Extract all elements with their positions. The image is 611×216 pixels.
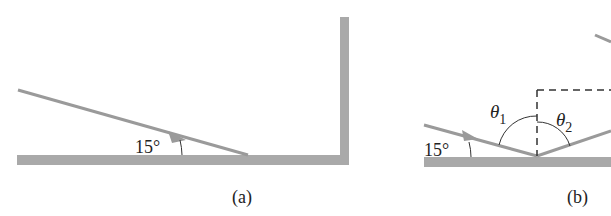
floor-surface: [17, 155, 349, 165]
reflected-ray: [537, 131, 611, 156]
theta1-label: θ1: [490, 101, 506, 127]
panel-b: 15° θ1 θ2 (b): [424, 35, 611, 208]
panel-a: 15° (a): [17, 17, 349, 208]
angle-label: 15°: [135, 137, 160, 157]
angle-15-arc: [469, 142, 471, 157]
angle-arc: [180, 140, 182, 155]
incident-ray: [18, 90, 248, 155]
wall-surface: [340, 17, 349, 165]
angle-label: 15°: [424, 140, 449, 160]
reflection-diagram: 15° (a) 15° θ1 θ2 (b): [0, 0, 611, 216]
floor-surface: [424, 157, 611, 167]
caption-a: (a): [232, 187, 252, 208]
theta2-label: θ2: [556, 109, 572, 135]
incoming-ray-top: [595, 35, 611, 42]
caption-b: (b): [567, 187, 588, 208]
